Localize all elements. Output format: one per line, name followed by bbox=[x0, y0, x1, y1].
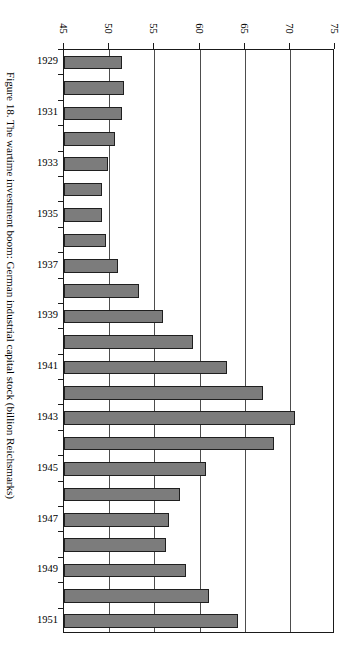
bar-row bbox=[64, 279, 333, 304]
x-tick-label-55: 55 bbox=[147, 16, 160, 42]
y-tick-label-1943: 1943 bbox=[18, 412, 58, 423]
bar-row bbox=[64, 202, 333, 227]
bar-row bbox=[64, 507, 333, 532]
bar-1938 bbox=[64, 284, 139, 298]
x-tick-label-50: 50 bbox=[102, 16, 115, 42]
y-tick-label-1935: 1935 bbox=[18, 209, 58, 220]
bar-1950 bbox=[64, 589, 209, 603]
bar-1935 bbox=[64, 208, 102, 222]
y-tick-label-1945: 1945 bbox=[18, 463, 58, 474]
figure-container: Figure 18. The wartime investment boom: … bbox=[0, 0, 354, 666]
bar-row bbox=[64, 75, 333, 100]
bar-1933 bbox=[64, 157, 108, 171]
bar-row bbox=[64, 405, 333, 430]
bar-row bbox=[64, 355, 333, 380]
bar-row bbox=[64, 329, 333, 354]
bar-1939 bbox=[64, 310, 163, 324]
bar-1944 bbox=[64, 437, 274, 451]
y-tick-label-1941: 1941 bbox=[18, 361, 58, 372]
x-tick-label-45: 45 bbox=[57, 16, 70, 42]
bar-1930 bbox=[64, 81, 124, 95]
y-tick-label-1931: 1931 bbox=[18, 107, 58, 118]
y-tick-label-1949: 1949 bbox=[18, 564, 58, 575]
bar-1949 bbox=[64, 564, 186, 578]
y-tick-label-1929: 1929 bbox=[18, 56, 58, 67]
bar-1932 bbox=[64, 132, 115, 146]
x-tick-label-65: 65 bbox=[237, 16, 250, 42]
bar-row bbox=[64, 101, 333, 126]
plot-area bbox=[63, 49, 334, 633]
bar-series bbox=[64, 50, 333, 632]
bar-row bbox=[64, 304, 333, 329]
y-tick-label-1933: 1933 bbox=[18, 158, 58, 169]
y-tick-label-1951: 1951 bbox=[18, 615, 58, 626]
bar-1945 bbox=[64, 462, 206, 476]
bar-row bbox=[64, 177, 333, 202]
x-tick-label-60: 60 bbox=[192, 16, 205, 42]
bar-1941 bbox=[64, 361, 227, 375]
bar-row bbox=[64, 50, 333, 75]
bar-row bbox=[64, 380, 333, 405]
bar-row bbox=[64, 482, 333, 507]
bar-1947 bbox=[64, 513, 169, 527]
bar-row bbox=[64, 126, 333, 151]
bar-row bbox=[64, 253, 333, 278]
bar-row bbox=[64, 583, 333, 608]
x-tick-label-75: 75 bbox=[328, 16, 341, 42]
bar-1934 bbox=[64, 183, 102, 197]
bar-row bbox=[64, 558, 333, 583]
y-tick-label-1939: 1939 bbox=[18, 310, 58, 321]
bar-row bbox=[64, 456, 333, 481]
bar-1946 bbox=[64, 488, 180, 502]
bar-1929 bbox=[64, 56, 122, 70]
bar-1936 bbox=[64, 234, 106, 248]
bar-1937 bbox=[64, 259, 118, 273]
x-tick-label-70: 70 bbox=[282, 16, 295, 42]
bar-1931 bbox=[64, 107, 122, 121]
y-tick-label-1947: 1947 bbox=[18, 514, 58, 525]
bar-row bbox=[64, 431, 333, 456]
bar-1942 bbox=[64, 386, 263, 400]
bar-row bbox=[64, 609, 333, 634]
bar-1951 bbox=[64, 614, 238, 628]
bar-row bbox=[64, 152, 333, 177]
bar-1943 bbox=[64, 411, 295, 425]
bar-row bbox=[64, 532, 333, 557]
y-tick-label-1937: 1937 bbox=[18, 260, 58, 271]
bar-1948 bbox=[64, 538, 166, 552]
bar-1940 bbox=[64, 335, 193, 349]
bar-row bbox=[64, 228, 333, 253]
x-tick-mark-75 bbox=[334, 43, 335, 49]
